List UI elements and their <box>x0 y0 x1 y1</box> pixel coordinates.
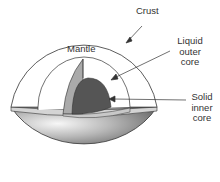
crust-label: Crust <box>136 6 159 17</box>
outer-core-label: Liquid outer core <box>174 36 206 68</box>
inner-core-label: Solid inner core <box>188 92 216 124</box>
earth-cutaway-illustration <box>0 0 220 182</box>
mantle-label: Mantle <box>67 44 96 55</box>
earth-layers-diagram: Crust Mantle Liquid outer core Solid inn… <box>0 0 220 182</box>
crust-arrow <box>126 26 142 43</box>
